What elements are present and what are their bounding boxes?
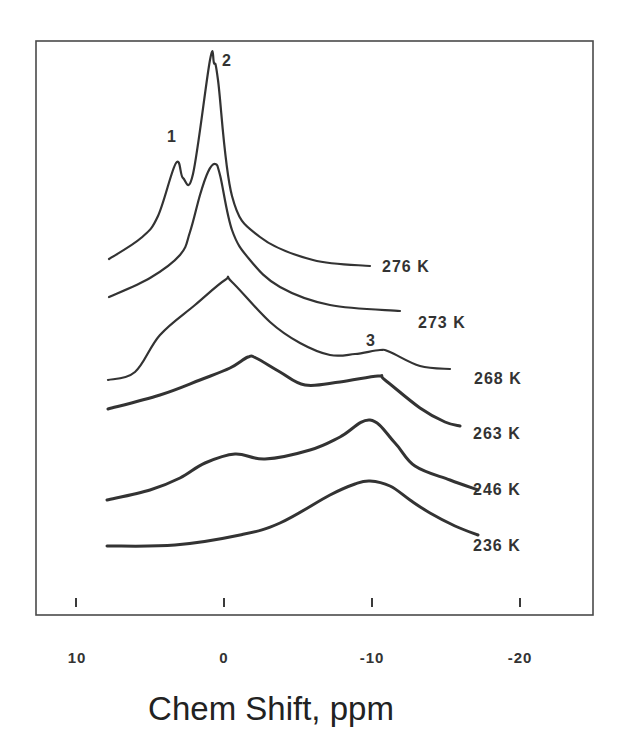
- trace-246k: [107, 420, 478, 500]
- x-tick-label-10: 10: [68, 649, 87, 666]
- x-axis-title: Chem Shift, ppm: [148, 690, 394, 727]
- trace-276k: [109, 51, 370, 266]
- x-axis-tick-labels: 10 0 -10 -20: [68, 649, 533, 666]
- x-axis-ticks: [76, 598, 520, 607]
- peak-label-2: 2: [222, 52, 231, 69]
- spectra-traces: [107, 51, 478, 546]
- trace-236k: [107, 481, 478, 546]
- x-tick-label-minus10: -10: [360, 649, 385, 666]
- series-label-263k: 263 K: [473, 425, 521, 442]
- series-label-276k: 276 K: [382, 258, 430, 275]
- trace-273k: [109, 164, 400, 311]
- series-labels: 276 K 273 K 268 K 263 K 246 K 236 K: [382, 258, 522, 554]
- trace-268k: [108, 277, 450, 380]
- trace-263k: [108, 356, 460, 426]
- series-label-273k: 273 K: [418, 314, 466, 331]
- peak-label-1: 1: [167, 128, 176, 145]
- series-label-268k: 268 K: [474, 370, 522, 387]
- series-label-246k: 246 K: [473, 481, 521, 498]
- nmr-spectra-chart: 10 0 -10 -20 Chem Shift, ppm 276 K 273 K…: [0, 0, 626, 756]
- plot-frame: [36, 41, 593, 615]
- x-tick-label-0: 0: [219, 649, 228, 666]
- series-label-236k: 236 K: [473, 537, 521, 554]
- peak-label-3: 3: [366, 332, 375, 349]
- x-tick-label-minus20: -20: [508, 649, 533, 666]
